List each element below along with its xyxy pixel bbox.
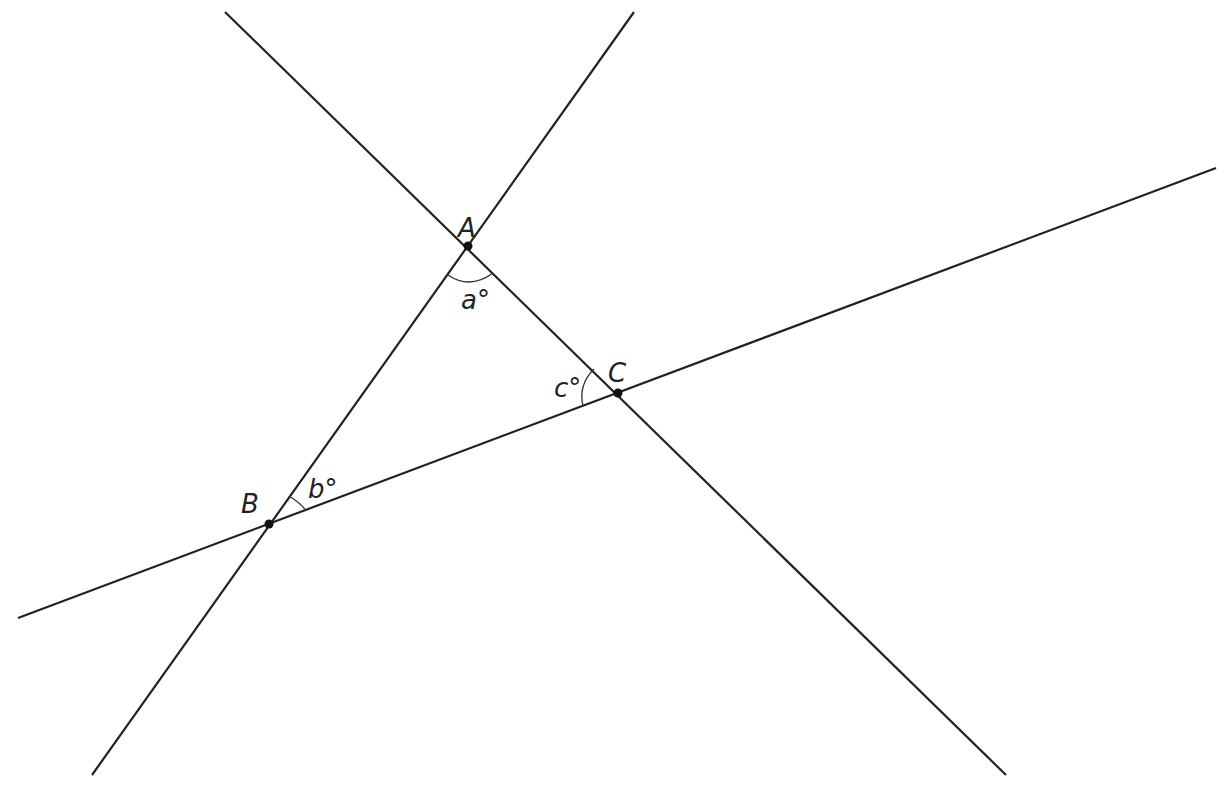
angle-label-a: a° [461,285,490,315]
angle-arc-b [289,496,306,511]
triangle-diagram: A B C a° b° c° [0,0,1226,796]
point-label-c: C [608,358,627,388]
point-label-b: B [241,489,259,519]
angle-arc-c [582,369,594,406]
line-ab [92,12,634,775]
point-b [265,520,274,529]
angle-label-c: c° [554,373,581,403]
angle-label-b: b° [308,474,338,504]
point-c [614,389,623,398]
point-label-a: A [456,213,476,243]
angle-arc-a [448,273,493,282]
